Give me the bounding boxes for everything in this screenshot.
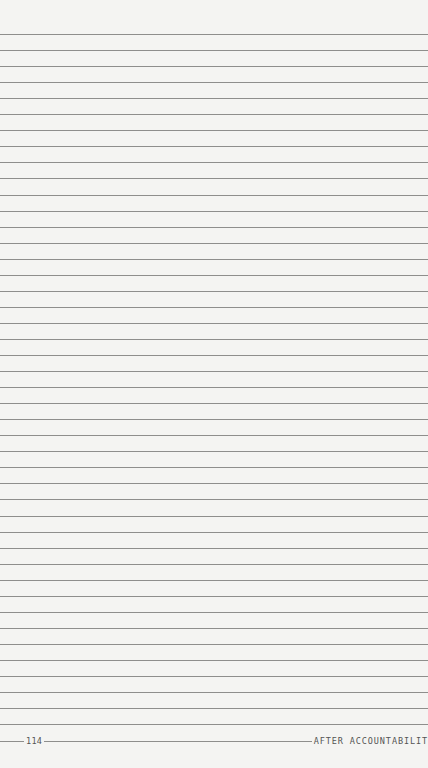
ruled-line [0,211,428,212]
ruled-line [0,146,428,147]
ruled-line [0,612,428,613]
ruled-line [0,162,428,163]
ruled-line [0,259,428,260]
ruled-line [0,307,428,308]
ruled-line [0,708,428,709]
ruled-line [0,692,428,693]
ruled-line [0,676,428,677]
ruled-line [0,660,428,661]
ruled-line [0,275,428,276]
ruled-line [0,195,428,196]
ruled-line [0,50,428,51]
ruled-line [0,114,428,115]
ruled-line [0,419,428,420]
ruled-line [0,516,428,517]
ruled-line [0,178,428,179]
ruled-line [0,243,428,244]
ruled-line [0,467,428,468]
ruled-line [0,66,428,67]
ruled-line [0,483,428,484]
ruled-line [0,644,428,645]
ruled-line [0,628,428,629]
ruled-line [0,371,428,372]
ruled-line [0,499,428,500]
ruled-line [0,130,428,131]
ruled-line [0,580,428,581]
ruled-line [0,82,428,83]
ruled-line [0,291,428,292]
ruled-line [0,227,428,228]
running-title: AFTER ACCOUNTABILIT [312,734,428,748]
ruled-line [0,339,428,340]
ruled-line [0,532,428,533]
page-number: 114 [24,734,44,748]
ruled-line [0,435,428,436]
ruled-line [0,451,428,452]
ruled-line [0,548,428,549]
ruled-line [0,98,428,99]
page-footer: 114 AFTER ACCOUNTABILIT [0,734,428,748]
notes-page: 114 AFTER ACCOUNTABILIT [0,0,428,768]
ruled-line [0,403,428,404]
ruled-line [0,355,428,356]
ruled-line [0,387,428,388]
ruled-line [0,596,428,597]
ruled-line [0,564,428,565]
ruled-line [0,34,428,35]
ruled-line [0,323,428,324]
ruled-line [0,724,428,725]
